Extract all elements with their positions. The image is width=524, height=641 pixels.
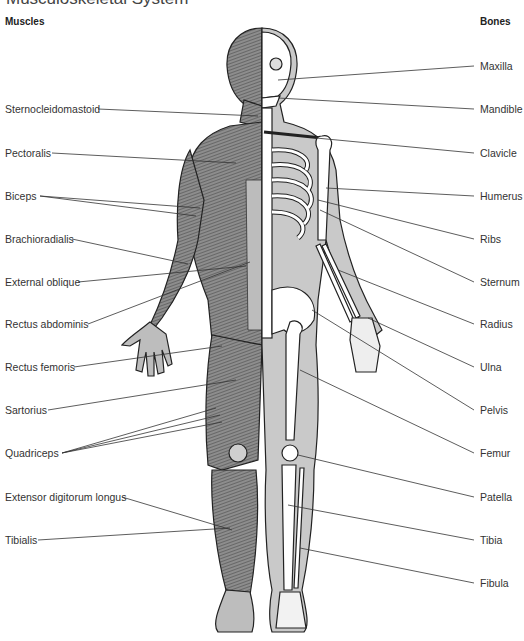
label-sartorius: Sartorius — [5, 404, 47, 416]
label-pectoralis: Pectoralis — [5, 147, 51, 159]
label-humerus: Humerus — [480, 190, 523, 202]
label-sternum: Sternum — [480, 276, 520, 288]
label-biceps: Biceps — [5, 190, 37, 202]
muscle-half — [122, 28, 262, 632]
label-mandible: Mandible — [480, 103, 523, 115]
label-sternocleidomastoid: Sternocleidomastoid — [5, 103, 100, 115]
label-clavicle: Clavicle — [480, 147, 517, 159]
label-fibula: Fibula — [480, 577, 509, 589]
label-quadriceps: Quadriceps — [5, 447, 59, 459]
label-pelvis: Pelvis — [480, 404, 508, 416]
label-tibia: Tibia — [480, 534, 502, 546]
label-maxilla: Maxilla — [480, 60, 513, 72]
label-femur: Femur — [480, 447, 510, 459]
label-ribs: Ribs — [480, 233, 501, 245]
label-tibialis: Tibialis — [5, 534, 37, 546]
skeleton-half — [262, 28, 382, 632]
label-rectus-femoris: Rectus femoris — [5, 361, 75, 373]
label-extensor-digitorum-longus: Extensor digitorum longus — [5, 491, 126, 503]
label-patella: Patella — [480, 491, 512, 503]
label-external-oblique: External oblique — [5, 276, 80, 288]
label-ulna: Ulna — [480, 361, 502, 373]
label-rectus-abdominis: Rectus abdominis — [5, 318, 88, 330]
label-radius: Radius — [480, 318, 513, 330]
label-brachioradialis: Brachioradialis — [5, 233, 74, 245]
